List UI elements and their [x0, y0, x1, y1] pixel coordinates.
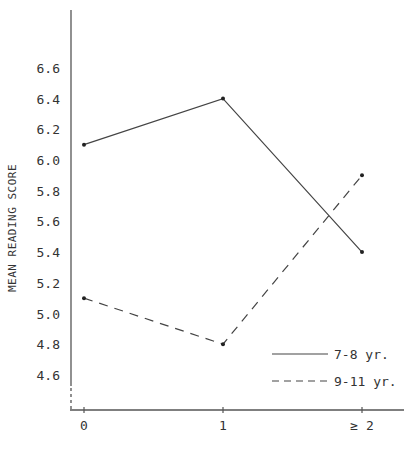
x-tick-label: ≥ 2 [350, 418, 373, 433]
data-point [82, 143, 86, 147]
line-chart: 4.64.85.05.25.45.65.86.06.26.46.6 01≥ 2 … [0, 0, 411, 451]
data-point [82, 296, 86, 300]
data-series [82, 97, 364, 347]
x-tick-label: 1 [219, 418, 227, 433]
y-tick-label: 5.2 [37, 276, 60, 291]
data-point [221, 342, 225, 346]
data-point [360, 173, 364, 177]
y-tick-label: 5.0 [37, 307, 60, 322]
y-tick-label: 5.4 [37, 245, 61, 260]
y-axis-ticks: 4.64.85.05.25.45.65.86.06.26.46.6 [37, 61, 61, 383]
y-tick-label: 5.8 [37, 184, 60, 199]
data-point [221, 97, 225, 101]
series-solid [82, 97, 364, 255]
x-axis-ticks: 01≥ 2 [80, 407, 374, 433]
y-tick-label: 4.6 [37, 368, 60, 383]
x-tick-label: 0 [80, 418, 88, 433]
y-tick-label: 6.2 [37, 122, 60, 137]
y-axis-title: MEAN READING SCORE [6, 164, 19, 292]
series-line [84, 175, 362, 344]
legend-label: 9-11 yr. [334, 374, 397, 389]
legend: 7-8 yr.9-11 yr. [272, 347, 397, 389]
series-line [84, 99, 362, 253]
series-dashed [82, 173, 364, 346]
y-tick-label: 6.4 [37, 92, 61, 107]
data-point [360, 250, 364, 254]
y-tick-label: 6.6 [37, 61, 60, 76]
y-tick-label: 6.0 [37, 153, 60, 168]
y-tick-label: 5.6 [37, 214, 60, 229]
y-tick-label: 4.8 [37, 337, 60, 352]
legend-label: 7-8 yr. [334, 347, 389, 362]
